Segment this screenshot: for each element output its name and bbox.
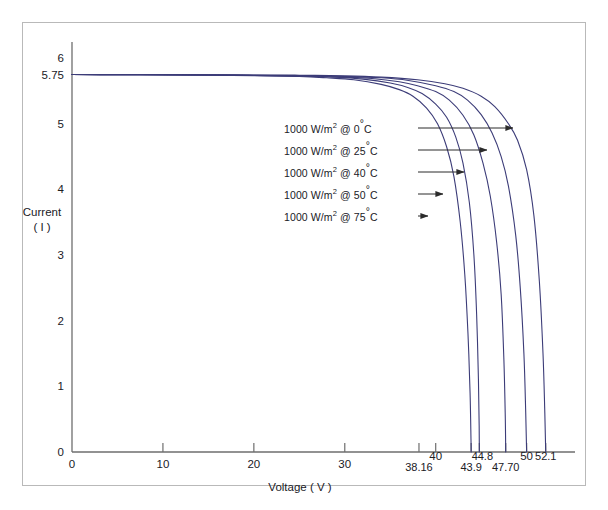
legend-label-2: 1000 W/m2 @ 25°C: [284, 143, 378, 157]
x-tick-label-10: 10: [157, 458, 170, 470]
legend-label-3: 1000 W/m2 @ 40°C: [284, 165, 378, 179]
y-axis-title-line1: Current: [14, 206, 70, 218]
y-tick-label-0: 0: [20, 446, 64, 458]
legend-label-5: 1000 W/m2 @ 75°C: [284, 209, 378, 223]
y-tick-label-2: 2: [20, 315, 64, 327]
x-axis-title: Voltage ( V ): [240, 481, 360, 493]
axes: [72, 42, 575, 452]
x-tick-label-20: 20: [247, 458, 260, 470]
x-tick-label-0: 0: [69, 458, 75, 470]
y-tick-label-1: 1: [20, 380, 64, 392]
iv-curve-75c: [72, 75, 471, 452]
iv-curve-plot: [0, 0, 608, 510]
x-tick-label-52-1: 52.1: [535, 450, 556, 462]
legend-label-1: 1000 W/m2 @ 0°C: [284, 121, 372, 135]
annotation-arrows: [418, 128, 513, 216]
x-tick-label-47-70: 47.70: [492, 461, 520, 473]
legend-label-4: 1000 W/m2 @ 50°C: [284, 187, 378, 201]
y-tick-label-5-75: 5.75: [20, 69, 64, 81]
x-tick-label-30: 30: [338, 458, 351, 470]
y-tick-label-6: 6: [20, 52, 64, 64]
iv-curve-50c: [72, 75, 479, 452]
chart-figure: 0123455.7560102030405038.1643.944.847.70…: [0, 0, 608, 510]
x-tick-label-44-8: 44.8: [472, 450, 493, 462]
y-axis-title-line2: ( I ): [14, 221, 70, 233]
y-tick-label-5: 5: [20, 118, 64, 130]
x-tick-label-50: 50: [520, 450, 533, 462]
x-tick-label-38-16: 38.16: [405, 461, 433, 473]
x-tick-label-43-9: 43.9: [460, 461, 481, 473]
y-tick-label-4: 4: [20, 183, 64, 195]
y-tick-label-3: 3: [20, 249, 64, 261]
